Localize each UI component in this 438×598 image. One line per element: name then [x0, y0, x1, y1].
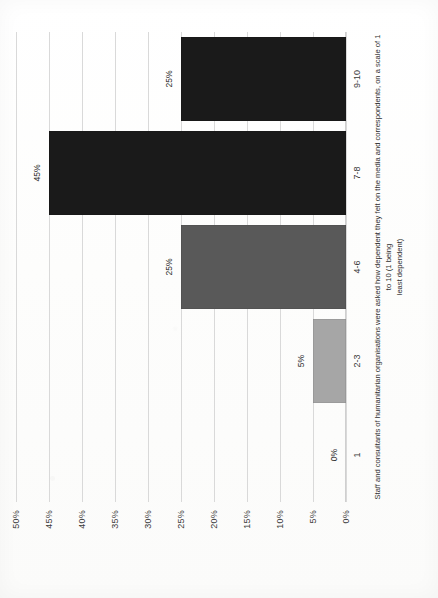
y-axis-tick-label: 25% [176, 510, 186, 529]
bar-column: 25%9-10 [16, 37, 346, 122]
y-axis-tick-label: 35% [110, 510, 120, 529]
y-axis-tick-label: 5% [308, 510, 318, 523]
y-axis-tick-label: 0% [341, 510, 351, 523]
plot-area: 50%45%40%35%30%25%20%15%10%5%0% 0%15%2-3… [16, 32, 346, 502]
category-axis-label: 9-10 [352, 70, 362, 88]
gridline: 0% [346, 32, 347, 502]
bar-value-label: 0% [329, 449, 339, 461]
bar-column: 25%4-6 [16, 225, 346, 310]
category-axis-label: 2-3 [352, 355, 362, 368]
chart-figure: 50%45%40%35%30%25%20%15%10%5%0% 0%15%2-3… [0, 0, 438, 598]
caption-line-2: least dependent) [394, 32, 405, 502]
category-axis-label: 1 [352, 453, 362, 458]
y-axis-tick-label: 45% [44, 510, 54, 529]
y-axis-tick-label: 30% [143, 510, 153, 529]
bar [313, 319, 346, 404]
category-axis-label: 4-6 [352, 261, 362, 274]
bar-column: 0%1 [16, 413, 346, 498]
y-axis-tick-label: 10% [275, 510, 285, 529]
chart-caption: Staff and consultants of humanitarian or… [372, 32, 405, 502]
bar-column: 5%2-3 [16, 319, 346, 404]
bar-value-label: 5% [296, 355, 306, 367]
bar-value-label: 45% [32, 165, 42, 182]
bar-value-label: 25% [164, 71, 174, 88]
category-axis-label: 7-8 [352, 167, 362, 180]
y-axis-tick-label: 15% [242, 510, 252, 529]
scanned-page: 50%45%40%35%30%25%20%15%10%5%0% 0%15%2-3… [0, 0, 438, 598]
bar [181, 225, 346, 310]
y-axis-tick-label: 40% [77, 510, 87, 529]
y-axis-tick-label: 20% [209, 510, 219, 529]
y-axis-tick-label: 50% [11, 510, 21, 529]
bar [49, 131, 346, 216]
bar [181, 37, 346, 122]
caption-line-1: Staff and consultants of humanitarian or… [373, 34, 393, 499]
bar-column: 45%7-8 [16, 131, 346, 216]
bar-series: 0%15%2-325%4-645%7-825%9-10 [16, 32, 346, 502]
bar-value-label: 25% [164, 259, 174, 276]
